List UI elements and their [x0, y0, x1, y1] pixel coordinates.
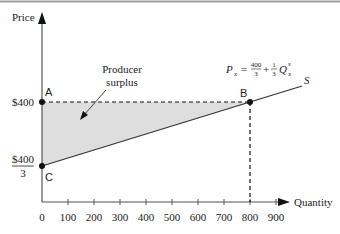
- y-axis-label: Price: [12, 11, 35, 23]
- svg-text:s: s: [288, 60, 291, 68]
- annotation-line1: Producer: [102, 63, 142, 75]
- supply-curve-label: S: [304, 74, 310, 86]
- x-axis-label: Quantity: [294, 196, 333, 208]
- point-c: [39, 163, 45, 169]
- y-label-frac-den: 3: [20, 167, 26, 179]
- svg-text:800: 800: [242, 211, 259, 223]
- point-b: [247, 99, 253, 105]
- producer-surplus-chart: 0 100 200 300 400 500 600 700 800 900 Qu…: [0, 0, 340, 234]
- svg-text:700: 700: [216, 211, 233, 223]
- svg-text:200: 200: [86, 211, 103, 223]
- svg-text:300: 300: [112, 211, 129, 223]
- svg-text:0: 0: [39, 211, 45, 223]
- svg-text:400: 400: [138, 211, 155, 223]
- svg-text:500: 500: [164, 211, 181, 223]
- supply-equation: P x = 400 3 + 1 3 Q s x: [225, 60, 292, 78]
- svg-text:+: +: [263, 63, 269, 75]
- svg-text:P: P: [225, 63, 233, 75]
- svg-text:600: 600: [190, 211, 207, 223]
- svg-text:Q: Q: [279, 63, 287, 75]
- svg-text:x: x: [287, 70, 292, 78]
- x-axis-arrow-icon: [278, 198, 290, 206]
- y-label-400: $400: [12, 96, 35, 108]
- point-c-label: C: [45, 171, 53, 183]
- svg-text:3: 3: [272, 70, 276, 78]
- svg-text:3: 3: [254, 70, 258, 78]
- svg-text:100: 100: [60, 211, 77, 223]
- svg-text:x: x: [233, 70, 238, 78]
- svg-text:400: 400: [251, 61, 262, 69]
- y-axis-arrow-icon: [38, 12, 46, 24]
- y-label-frac-num: $400: [12, 153, 35, 165]
- x-tick-labels: 0 100 200 300 400 500 600 700 800 900: [39, 211, 285, 223]
- point-a: [39, 99, 45, 105]
- svg-text:=: =: [241, 63, 247, 75]
- svg-text:1: 1: [272, 61, 276, 69]
- annotation-line2: surplus: [106, 76, 138, 88]
- point-a-label: A: [45, 86, 53, 98]
- point-b-label: B: [240, 87, 247, 99]
- svg-text:900: 900: [268, 211, 285, 223]
